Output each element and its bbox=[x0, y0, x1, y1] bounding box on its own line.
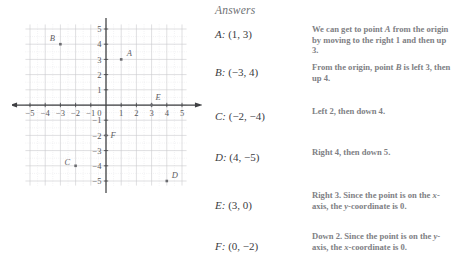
x-tick-label: 1 bbox=[119, 108, 123, 118]
answer-coordinates: (−3, 4) bbox=[225, 66, 258, 78]
explanation-text: From the origin, point B is left 3, then… bbox=[312, 62, 452, 83]
worked-example-page: −5−4−3−2−101234554321−1−2−3−4−5 ABCDEF x… bbox=[0, 0, 461, 280]
point-label-b: B bbox=[50, 33, 55, 43]
y-tick-label: −5 bbox=[92, 176, 101, 186]
answer-point-label: D: bbox=[215, 151, 227, 163]
explanation-text: We can get to point A from the origin by… bbox=[312, 24, 452, 56]
explanations-panel: We can get to point A from the origin by… bbox=[312, 0, 461, 280]
x-tick-label: −5 bbox=[25, 108, 34, 118]
y-tick-label: −2 bbox=[92, 131, 101, 141]
x-tick-label: 2 bbox=[134, 108, 138, 118]
y-tick-label: 3 bbox=[97, 55, 101, 65]
answer-point-label: B: bbox=[215, 66, 225, 78]
point-label-f: F bbox=[110, 130, 117, 140]
coordinate-plane-panel: −5−4−3−2−101234554321−1−2−3−4−5 ABCDEF x… bbox=[0, 0, 205, 280]
x-tick-label: 5 bbox=[180, 108, 184, 118]
y-tick-label: −3 bbox=[92, 146, 101, 156]
plotted-points: ABCDEF bbox=[50, 33, 179, 183]
x-tick-label: 4 bbox=[165, 108, 170, 118]
y-tick-label: 5 bbox=[97, 24, 101, 34]
plotted-point-a bbox=[120, 58, 123, 61]
answers-heading: Answers bbox=[215, 4, 255, 16]
answer-coordinates: (−2, −4) bbox=[226, 110, 265, 122]
point-label-e: E bbox=[155, 92, 162, 102]
explanation-text: Right 4, then down 5. bbox=[312, 147, 452, 158]
answer-point-label: F: bbox=[215, 240, 225, 252]
explanation-text: Right 3. Since the point is on the x-axi… bbox=[312, 190, 452, 211]
answer-point-label: C: bbox=[215, 110, 226, 122]
plotted-point-c bbox=[74, 165, 77, 168]
answer-coordinates: (4, −5) bbox=[227, 151, 260, 163]
y-tick-label: 2 bbox=[97, 70, 101, 80]
explanation-text: Left 2, then down 4. bbox=[312, 106, 452, 117]
answer-coordinates: (3, 0) bbox=[225, 199, 252, 211]
answer-point-label: A: bbox=[215, 28, 225, 40]
x-tick-label: −4 bbox=[41, 108, 51, 118]
point-label-c: C bbox=[64, 157, 70, 167]
plotted-point-b bbox=[59, 43, 62, 46]
x-tick-label: −2 bbox=[71, 108, 80, 118]
answer-coordinates: (0, −2) bbox=[225, 240, 258, 252]
plotted-point-e bbox=[150, 104, 153, 107]
answer-row: A: (1, 3) bbox=[215, 28, 252, 40]
answer-row: B: (−3, 4) bbox=[215, 66, 258, 78]
answer-row: D: (4, −5) bbox=[215, 151, 259, 163]
answer-point-label: E: bbox=[215, 199, 225, 211]
explanation-text: Down 2. Since the point is on the y-axis… bbox=[312, 231, 452, 252]
point-label-a: A bbox=[126, 48, 133, 58]
y-tick-label: −4 bbox=[92, 161, 102, 171]
answer-row: F: (0, −2) bbox=[215, 240, 258, 252]
answer-row: C: (−2, −4) bbox=[215, 110, 265, 122]
y-tick-label: 1 bbox=[97, 85, 101, 95]
answer-row: E: (3, 0) bbox=[215, 199, 252, 211]
plotted-point-f bbox=[105, 134, 108, 137]
x-tick-label: 3 bbox=[149, 108, 153, 118]
x-tick-label: −3 bbox=[56, 108, 65, 118]
y-tick-label: −1 bbox=[92, 115, 101, 125]
coordinate-plane-graph: −5−4−3−2−101234554321−1−2−3−4−5 ABCDEF x… bbox=[12, 18, 202, 193]
answer-coordinates: (1, 3) bbox=[225, 28, 252, 40]
plotted-point-d bbox=[166, 180, 169, 183]
point-label-d: D bbox=[171, 170, 179, 180]
answers-panel: Answers A: (1, 3)B: (−3, 4)C: (−2, −4)D:… bbox=[214, 0, 310, 280]
